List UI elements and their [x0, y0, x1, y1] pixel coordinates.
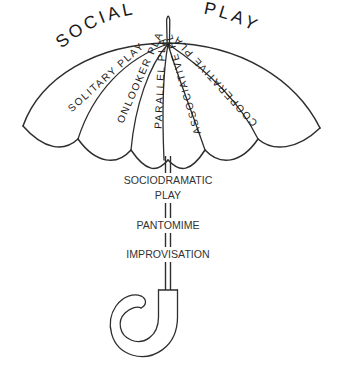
- umbrella-illustration: SOCIAL PLAY SOLITARY PLAY ONLOOKER PLAY …: [0, 0, 337, 369]
- shaft-stage-labels: SOCIODRAMATIC PLAY PANTOMIME IMPROVISATI…: [124, 174, 213, 260]
- shaft-label-improvisation: IMPROVISATION: [126, 248, 209, 260]
- umbrella-handle: [110, 290, 177, 356]
- shaft-label-sociodramatic-play: PLAY: [155, 189, 181, 201]
- title-word-play: PLAY: [202, 0, 263, 36]
- title-word-play-text: PLAY: [202, 0, 263, 36]
- canopy-scalloped-edge: [23, 126, 320, 168]
- shaft-label-pantomime: PANTOMIME: [136, 219, 199, 231]
- title-word-social: SOCIAL: [52, 0, 137, 52]
- umbrella-diagram: SOCIAL PLAY SOLITARY PLAY ONLOOKER PLAY …: [0, 0, 337, 369]
- shaft-label-sociodramatic: SOCIODRAMATIC: [124, 174, 213, 186]
- title-word-social-text: SOCIAL: [52, 0, 137, 52]
